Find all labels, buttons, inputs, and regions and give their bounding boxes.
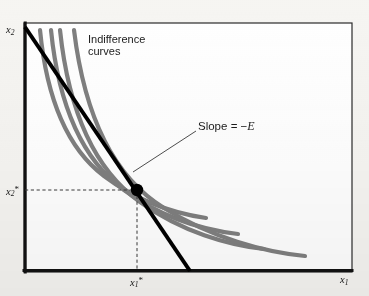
indifference-curves-annotation: Indifferencecurves: [88, 33, 145, 58]
optimum-point-dot: [131, 184, 143, 196]
x-axis-label: x1: [340, 274, 348, 287]
y-optimum-star: *: [14, 184, 19, 194]
slope-annotation: Slope = −E: [198, 120, 255, 133]
indifference-curves-line-1: Indifference: [88, 33, 145, 45]
slope-annotation-symbol: E: [247, 119, 254, 133]
slope-annotation-prefix: Slope: [198, 120, 227, 132]
x-optimum-tick-label: x1*: [130, 275, 143, 290]
indifference-curves-line-2: curves: [88, 45, 145, 57]
x-optimum-star: *: [138, 275, 143, 285]
y-axis-label: x2: [6, 24, 14, 37]
plot-area-background: [24, 23, 352, 272]
y-optimum-tick-label: x2*: [6, 184, 19, 199]
x-axis-label-subscript: 1: [345, 278, 349, 287]
figure-root: x2 x1 x2* x1* Indifferencecurves Slope =…: [0, 0, 369, 296]
indifference-curve-chart: [0, 0, 369, 296]
y-axis-label-subscript: 2: [11, 28, 15, 37]
